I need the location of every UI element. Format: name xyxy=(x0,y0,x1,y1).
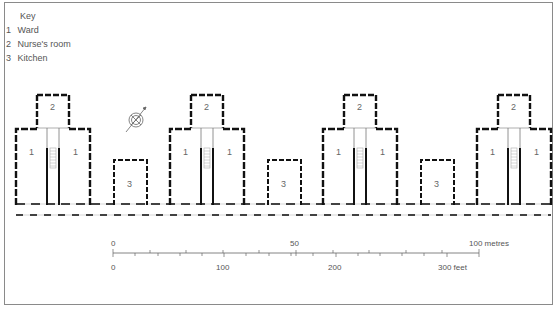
svg-text:2: 2 xyxy=(511,102,516,112)
pavilion-2: 1 1 2 xyxy=(170,95,244,205)
scale-feet-200: 200 xyxy=(328,263,342,272)
svg-text:1: 1 xyxy=(183,147,188,157)
scale-feet-0: 0 xyxy=(111,263,116,272)
scale-feet-100: 100 xyxy=(216,263,230,272)
scale-metres-50: 50 xyxy=(290,239,299,248)
svg-text:1: 1 xyxy=(534,147,539,157)
svg-text:2: 2 xyxy=(50,102,55,112)
scale-metres-0: 0 xyxy=(111,239,116,248)
pavilion-1: 1 1 2 xyxy=(16,95,90,205)
svg-text:3: 3 xyxy=(281,179,286,189)
svg-text:3: 3 xyxy=(127,179,132,189)
svg-text:1: 1 xyxy=(73,147,78,157)
scale-metres-100: 100 metres xyxy=(469,239,509,248)
compass-icon xyxy=(126,107,146,132)
svg-text:1: 1 xyxy=(227,147,232,157)
scale-bar: 0 50 100 metres 0 100 200 300 feet xyxy=(111,239,509,272)
svg-text:1: 1 xyxy=(380,147,385,157)
floor-plan: 1 1 2 1 1 2 1 1 2 1 1 2 3 3 3 xyxy=(0,0,559,312)
svg-text:1: 1 xyxy=(29,147,34,157)
scale-feet-300: 300 feet xyxy=(438,263,468,272)
svg-text:2: 2 xyxy=(204,102,209,112)
kitchen-3: 3 xyxy=(421,160,454,205)
svg-text:1: 1 xyxy=(336,147,341,157)
pavilion-3: 1 1 2 xyxy=(323,95,397,205)
kitchen-2: 3 xyxy=(268,160,301,205)
kitchen-1: 3 xyxy=(114,160,147,205)
svg-text:2: 2 xyxy=(357,102,362,112)
svg-text:1: 1 xyxy=(490,147,495,157)
pavilion-4: 1 1 2 xyxy=(477,95,551,205)
svg-text:3: 3 xyxy=(434,179,439,189)
